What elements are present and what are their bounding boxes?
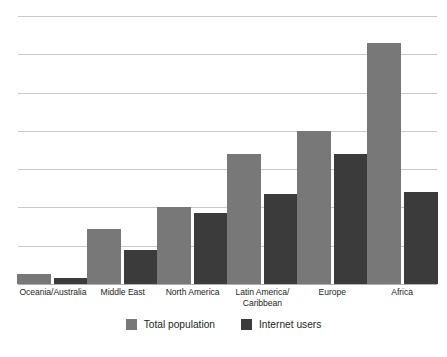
bar-internet-users — [124, 250, 158, 284]
bars-layer — [18, 16, 437, 284]
bar-total-population — [17, 274, 51, 284]
x-axis-tick-label: Latin America/ Caribbean — [228, 287, 298, 308]
bar-total-population — [297, 131, 331, 284]
bar-internet-users — [194, 213, 228, 284]
x-axis-tick-label: North America — [158, 287, 228, 298]
bar-internet-users — [404, 192, 438, 284]
chart-legend: Total population Internet users — [0, 319, 447, 330]
bar-total-population — [367, 43, 401, 284]
legend-item-total-population: Total population — [126, 319, 215, 330]
plot-area — [18, 16, 437, 284]
bar-chart: Oceania/AustraliaMiddle EastNorth Americ… — [0, 0, 447, 357]
x-axis-tick-label: Europe — [297, 287, 367, 298]
x-axis-tick-label: Middle East — [88, 287, 158, 298]
legend-item-internet-users: Internet users — [241, 319, 321, 330]
legend-swatch-internet-users-icon — [241, 319, 252, 330]
bar-internet-users — [54, 278, 88, 284]
bar-total-population — [227, 154, 261, 284]
x-axis-tick-label: Africa — [367, 287, 437, 298]
bar-total-population — [157, 207, 191, 284]
legend-label-internet-users: Internet users — [259, 319, 321, 330]
x-axis-tick-label: Oceania/Australia — [18, 287, 88, 298]
legend-label-total-population: Total population — [144, 319, 215, 330]
axis-baseline — [18, 284, 437, 285]
bar-internet-users — [334, 154, 368, 284]
bar-total-population — [87, 229, 121, 285]
x-axis-labels: Oceania/AustraliaMiddle EastNorth Americ… — [18, 287, 437, 317]
bar-internet-users — [264, 194, 298, 284]
legend-swatch-total-population-icon — [126, 319, 137, 330]
